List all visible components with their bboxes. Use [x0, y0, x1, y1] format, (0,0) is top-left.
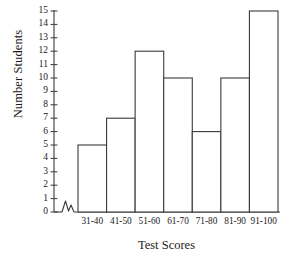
axis-break-zigzag	[62, 201, 74, 212]
y-axis-tick-label: 1	[32, 194, 48, 204]
bars	[78, 11, 278, 212]
axis-break-icon	[62, 201, 74, 212]
y-axis-tick-label: 13	[32, 33, 48, 43]
bar	[107, 118, 136, 212]
y-axis-tick-label: 4	[32, 153, 48, 163]
histogram-chart: Number Students Test Scores 012345678910…	[0, 0, 290, 259]
x-axis-tick-label: 91-100	[246, 216, 281, 227]
y-axis-tick-label: 5	[32, 140, 48, 150]
y-axis-tick-label: 11	[32, 60, 48, 70]
y-axis-tick-label: 9	[32, 86, 48, 96]
bar	[78, 145, 107, 212]
bar	[135, 51, 164, 212]
y-axis-tick-label: 12	[32, 46, 48, 56]
y-axis-tick-label: 7	[32, 113, 48, 123]
x-axis-label: Test Scores	[54, 238, 279, 253]
y-axis-tick-label: 14	[32, 19, 48, 29]
y-axis-tick-label: 3	[32, 167, 48, 177]
y-axis-label: Number Students	[10, 9, 26, 139]
y-axis-tick-label: 2	[32, 180, 48, 190]
y-axis-tick-label: 0	[32, 207, 48, 217]
y-axis-tick-label: 8	[32, 100, 48, 110]
bar	[192, 132, 221, 212]
bar	[249, 11, 278, 212]
y-axis-tick-labels: 0123456789101112131415	[28, 0, 48, 259]
y-axis-tick-label: 15	[32, 6, 48, 16]
bar	[221, 78, 250, 212]
bar	[164, 78, 193, 212]
y-axis-tick-label: 6	[32, 127, 48, 137]
y-axis-tick-label: 10	[32, 73, 48, 83]
